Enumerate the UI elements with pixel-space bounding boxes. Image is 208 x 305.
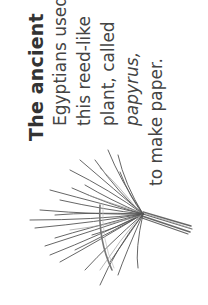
papyrus-plant-illustration	[0, 0, 208, 305]
papyrus-stem-bundle	[142, 212, 192, 234]
papyrus-fronds	[30, 150, 143, 285]
